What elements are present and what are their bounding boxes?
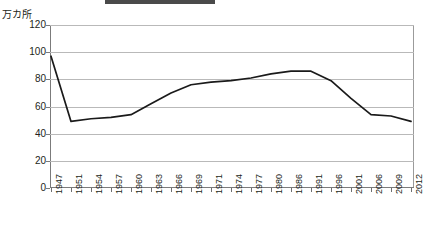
x-axis-tick-label: 1947: [55, 174, 64, 194]
x-axis-tick-label: 1971: [215, 174, 224, 194]
y-axis-tick-label: 120: [2, 20, 46, 30]
x-axis-tick-label: 1957: [115, 174, 124, 194]
top-cropped-bar: [105, 0, 215, 4]
data-line-series: [50, 25, 414, 188]
x-axis-tick-label: 1951: [75, 174, 84, 194]
x-axis-tick-label: 1969: [195, 174, 204, 194]
x-axis-tick-labels: 1947195119541957196019631966196919711974…: [50, 188, 414, 230]
x-axis-tick-mark: [391, 188, 392, 192]
x-axis-tick-label: 1996: [335, 174, 344, 194]
x-axis-tick-mark: [291, 188, 292, 192]
x-axis-tick-mark: [71, 188, 72, 192]
x-axis-tick-mark: [211, 188, 212, 192]
x-axis-tick-label: 2009: [395, 174, 404, 194]
x-axis-tick-label: 1954: [95, 174, 104, 194]
y-axis-tick-label: 0: [2, 183, 46, 193]
x-axis-tick-mark: [351, 188, 352, 192]
x-axis-tick-mark: [311, 188, 312, 192]
x-axis-tick-label: 1980: [275, 174, 284, 194]
x-axis-tick-mark: [371, 188, 372, 192]
y-axis-tick-label: 20: [2, 156, 46, 166]
x-axis-tick-label: 1960: [135, 174, 144, 194]
x-axis-tick-label: 2006: [375, 174, 384, 194]
y-axis-tick-label: 100: [2, 47, 46, 57]
x-axis-tick-label: 1991: [315, 174, 324, 194]
x-axis-tick-label: 1966: [175, 174, 184, 194]
x-axis-tick-label: 1986: [295, 174, 304, 194]
x-axis-tick-mark: [231, 188, 232, 192]
x-axis-tick-mark: [331, 188, 332, 192]
x-axis-tick-label: 1963: [155, 174, 164, 194]
x-axis-tick-label: 2012: [415, 174, 424, 194]
x-axis-tick-mark: [251, 188, 252, 192]
x-axis-tick-mark: [271, 188, 272, 192]
x-axis-tick-mark: [191, 188, 192, 192]
x-axis-tick-label: 2001: [355, 174, 364, 194]
y-axis-tick-label: 40: [2, 129, 46, 139]
y-axis-tick-label: 60: [2, 102, 46, 112]
x-axis-tick-mark: [111, 188, 112, 192]
x-axis-tick-mark: [411, 188, 412, 192]
y-axis-tick-labels: 120100806040200: [0, 25, 46, 188]
x-axis-tick-label: 1974: [235, 174, 244, 194]
y-axis-unit-label: 万カ所: [2, 9, 32, 20]
x-axis-tick-mark: [151, 188, 152, 192]
plot-area: [50, 25, 414, 188]
x-axis-tick-mark: [131, 188, 132, 192]
y-axis-tick-label: 80: [2, 74, 46, 84]
x-axis-tick-mark: [51, 188, 52, 192]
x-axis-tick-mark: [91, 188, 92, 192]
x-axis-tick-mark: [171, 188, 172, 192]
x-axis-tick-label: 1977: [255, 174, 264, 194]
